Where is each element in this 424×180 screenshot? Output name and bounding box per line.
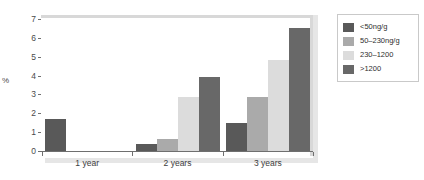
x-tick-mark: [132, 152, 133, 156]
x-tick-mark: [223, 152, 224, 156]
x-axis-group-label: 2 years: [138, 158, 218, 168]
y-axis-title: %: [2, 76, 9, 85]
legend-label: <50ng/g: [360, 23, 387, 31]
bar: [289, 28, 310, 152]
x-axis-line: [41, 151, 313, 152]
x-axis-group-label: 3 years: [228, 158, 308, 168]
y-tick-label: 6: [20, 34, 36, 43]
bar-chart: % 76543210 1 year2 years3 years <50ng/g5…: [0, 0, 424, 180]
y-tick-label: 3: [20, 90, 36, 99]
bar: [178, 97, 199, 151]
y-tick-label: 1: [20, 128, 36, 137]
legend-swatch-icon: [343, 51, 354, 60]
legend: <50ng/g50–230ng/g230–1200>1200: [337, 14, 419, 82]
legend-swatch-icon: [343, 37, 354, 46]
x-axis-group-label: 1 year: [47, 158, 127, 168]
bar: [247, 97, 268, 151]
legend-label: >1200: [360, 65, 381, 73]
legend-label: 230–1200: [360, 51, 393, 59]
legend-label: 50–230ng/g: [360, 37, 400, 45]
bar: [136, 144, 157, 151]
bar: [45, 119, 66, 151]
y-axis-ticks: 76543210: [20, 14, 42, 159]
bar: [199, 77, 220, 151]
legend-swatch-icon: [343, 65, 354, 74]
legend-item: 230–1200: [343, 48, 414, 62]
bar: [268, 60, 289, 151]
legend-item: >1200: [343, 62, 414, 76]
y-tick-label: 5: [20, 53, 36, 62]
legend-item: <50ng/g: [343, 20, 414, 34]
plot-area: [42, 19, 313, 151]
y-tick-label: 7: [20, 15, 36, 24]
x-tick-mark: [42, 152, 43, 156]
plot-frame-shadow-right: [313, 15, 318, 163]
bar: [157, 139, 178, 151]
legend-swatch-icon: [343, 23, 354, 32]
y-tick-label: 2: [20, 109, 36, 118]
bar: [226, 123, 247, 151]
x-tick-mark: [313, 152, 314, 156]
y-tick-label: 0: [20, 147, 36, 156]
y-tick-label: 4: [20, 72, 36, 81]
legend-item: 50–230ng/g: [343, 34, 414, 48]
